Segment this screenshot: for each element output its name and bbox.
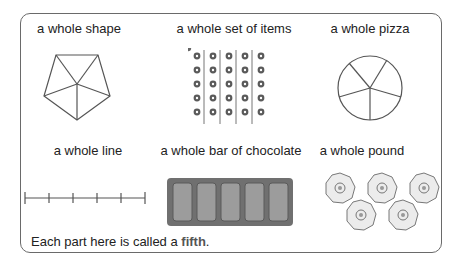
label-whole-chocolate: a whole bar of chocolate bbox=[161, 143, 302, 158]
caption: Each part here is called a fifth. bbox=[31, 234, 209, 249]
caption-prefix: Each part here is called a bbox=[31, 234, 181, 249]
coins-icon bbox=[320, 172, 448, 236]
label-whole-set: a whole set of items bbox=[177, 21, 292, 36]
label-whole-pound: a whole pound bbox=[320, 143, 405, 158]
label-whole-pizza: a whole pizza bbox=[331, 21, 410, 36]
caption-emphasis: fifth bbox=[181, 234, 206, 249]
chocolate-bar-icon bbox=[166, 177, 294, 227]
caption-suffix: . bbox=[206, 234, 210, 249]
label-whole-line: a whole line bbox=[54, 143, 123, 158]
label-whole-shape: a whole shape bbox=[37, 21, 121, 36]
number-line-icon bbox=[22, 190, 148, 206]
flower-set-icon bbox=[188, 48, 274, 126]
pentagon-divided-icon bbox=[40, 50, 120, 124]
pizza-divided-icon bbox=[334, 52, 406, 124]
